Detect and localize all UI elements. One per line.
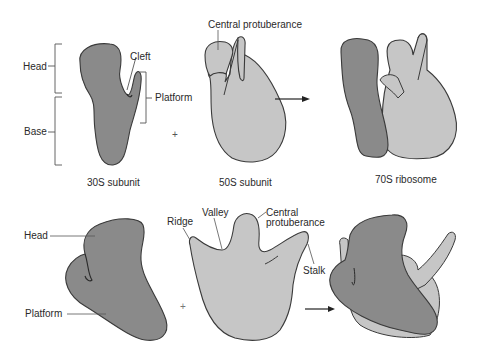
label-bottom-platform: Platform <box>25 308 62 319</box>
top-70s-ribosome <box>341 34 456 159</box>
label-bottom-valley: Valley <box>202 207 229 218</box>
bottom-70s-ribosome <box>330 215 456 338</box>
bottom-plus: + <box>180 301 186 312</box>
label-top-cleft: Cleft <box>130 51 151 62</box>
bottom-50s-subunit <box>189 213 308 340</box>
top-50s-subunit <box>205 37 286 162</box>
bottom-arrow <box>305 306 335 312</box>
caption-50s-subunit: 50S subunit <box>219 177 272 188</box>
bottom-30s-subunit <box>66 219 167 341</box>
label-bottom-protuberance: protuberance <box>266 217 325 228</box>
label-top-central-protuberance: Central protuberance <box>208 19 302 30</box>
top-plus-1: + <box>172 129 178 140</box>
caption-30s-subunit: 30S subunit <box>87 177 140 188</box>
label-bottom-stalk: Stalk <box>303 265 325 276</box>
label-top-base: Base <box>24 126 47 137</box>
label-top-platform: Platform <box>155 92 192 103</box>
caption-70s-ribosome: 70S ribosome <box>375 174 437 185</box>
label-top-head: Head <box>23 61 47 72</box>
label-bottom-head: Head <box>24 230 48 241</box>
label-bottom-ridge: Ridge <box>167 216 193 227</box>
